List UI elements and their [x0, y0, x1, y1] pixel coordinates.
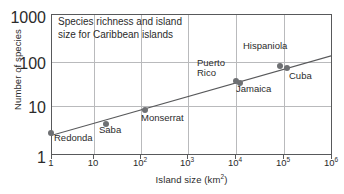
x-tick-label-1: 1	[31, 157, 71, 168]
point-label-hispaniola: Hispaniola	[243, 40, 287, 51]
x-tick-label-1e3: 103	[167, 157, 207, 168]
point-label-jamaica: Jamaica	[236, 83, 271, 94]
point-label-redonda: Redonda	[54, 132, 93, 143]
y-tick-label-10: 10	[10, 99, 46, 117]
x-tick-label-1e2: 102	[120, 157, 160, 168]
x-tick-label-1e6: 106	[311, 157, 344, 168]
point-label-monserrat: Monserrat	[141, 112, 184, 123]
chart-title: Species richness and island size for Car…	[58, 16, 238, 41]
x-tick-label-1e4: 104	[215, 157, 255, 168]
species-richness-chart: Number of species 1000 100 10 1 Species …	[0, 0, 344, 194]
data-point-hispaniola[interactable]	[277, 63, 283, 69]
point-label-saba: Saba	[99, 124, 121, 135]
point-label-puerto-rico-line2: Rico	[197, 67, 216, 78]
y-tick-label-1000: 1000	[10, 9, 46, 27]
y-tick-label-100: 100	[10, 55, 46, 73]
x-axis-label: Island size (km2)	[51, 174, 332, 185]
chart-title-line-2: size for Caribbean islands	[58, 29, 238, 42]
chart-title-line-1: Species richness and island	[58, 16, 238, 29]
point-label-cuba: Cuba	[289, 70, 312, 81]
x-tick-label-1e5: 105	[263, 157, 303, 168]
x-tick-label-10: 10	[73, 157, 113, 168]
